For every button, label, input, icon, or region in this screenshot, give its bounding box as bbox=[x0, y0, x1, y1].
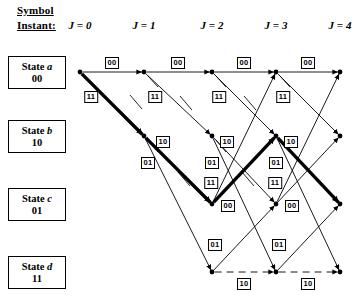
trellis-canvas bbox=[0, 0, 361, 301]
edge-b1-to-d2 bbox=[145, 138, 211, 270]
node-d-j4 bbox=[338, 270, 343, 275]
node-b-j3 bbox=[274, 134, 279, 139]
branch-output-label: 01 bbox=[208, 239, 222, 251]
node-c-j2 bbox=[210, 202, 215, 207]
pruned-branch-stub-3 bbox=[130, 95, 142, 109]
branch-output-label: 00 bbox=[285, 200, 299, 212]
branch-output-label: 01 bbox=[272, 239, 286, 251]
pruned-branch-stub-1 bbox=[216, 76, 226, 87]
branch-output-label: 01 bbox=[269, 157, 283, 169]
branch-output-label: 11 bbox=[212, 91, 226, 103]
pruned-branch-stub-2 bbox=[280, 76, 290, 87]
node-b-j4 bbox=[338, 134, 343, 139]
branch-output-label: 10 bbox=[237, 278, 251, 290]
branch-output-label: 00 bbox=[301, 57, 315, 69]
branch-output-label: 10 bbox=[220, 136, 234, 148]
pruned-branch-stub-0 bbox=[148, 76, 158, 87]
node-a-j1 bbox=[142, 70, 147, 75]
branch-output-label: 01 bbox=[205, 157, 219, 169]
branch-output-label: 11 bbox=[204, 177, 218, 189]
edge-a0-to-b1 bbox=[82, 74, 143, 135]
pruned-branch-stub-5 bbox=[244, 96, 256, 110]
branch-output-label: 10 bbox=[284, 136, 298, 148]
edge-d3-to-c4 bbox=[278, 206, 339, 271]
edge-a2-to-b3 bbox=[214, 74, 275, 135]
node-a-j0 bbox=[78, 70, 83, 75]
node-a-j4 bbox=[338, 70, 343, 75]
branch-output-label: 01 bbox=[141, 157, 155, 169]
edge-d2-to-c3 bbox=[214, 206, 275, 271]
branch-output-label: 00 bbox=[237, 57, 251, 69]
node-a-j2 bbox=[210, 70, 215, 75]
edge-a3-to-b4 bbox=[278, 74, 339, 135]
node-d-j2 bbox=[210, 270, 215, 275]
trellis-diagram: Symbol Instant: J = 0J = 1J = 2J = 3J = … bbox=[0, 0, 361, 301]
node-b-j1 bbox=[142, 134, 147, 139]
branch-output-label: 11 bbox=[276, 91, 290, 103]
branch-output-label: 11 bbox=[148, 91, 162, 103]
branch-output-label: 10 bbox=[156, 136, 170, 148]
node-d-j3 bbox=[274, 270, 279, 275]
branch-output-label: 00 bbox=[171, 57, 185, 69]
branch-output-label: 11 bbox=[268, 177, 282, 189]
branch-output-label: 00 bbox=[221, 200, 235, 212]
branch-output-label: 11 bbox=[84, 91, 98, 103]
node-a-j3 bbox=[274, 70, 279, 75]
branch-output-label: 00 bbox=[105, 57, 119, 69]
edge-a1-to-b2 bbox=[146, 74, 211, 135]
node-c-j3 bbox=[274, 202, 279, 207]
node-c-j4 bbox=[338, 202, 343, 207]
branch-output-label: 10 bbox=[301, 278, 315, 290]
node-b-j2 bbox=[210, 134, 215, 139]
